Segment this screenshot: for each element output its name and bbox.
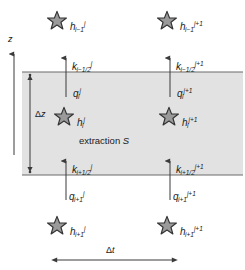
- q-bottom-left-sup: j: [83, 190, 84, 197]
- h-bottom-right-label: hi+1j+1: [180, 222, 203, 239]
- q-bottom-left-sub: i+1: [74, 196, 83, 203]
- star-h-top-left: [48, 11, 67, 29]
- q-top-right-sub: i: [182, 93, 183, 100]
- q-bottom-right-sub: i+1: [178, 196, 187, 203]
- h-center-right-sup: j+1: [189, 116, 198, 123]
- h-center-left-sup: j: [84, 116, 85, 123]
- h-top-right-sub: i−1: [185, 26, 194, 33]
- diagram-canvas: z Δz Δt extraction S hi−1j hi−1j+1 hij h…: [0, 0, 245, 270]
- h-bottom-right-sup: j+1: [194, 225, 203, 232]
- q-bottom-left-label: qi+1j: [69, 187, 84, 204]
- k-top-left-label: ki−1/2j: [72, 57, 92, 74]
- z-axis-label: z: [8, 35, 13, 44]
- h-bottom-right-sub: i+1: [185, 231, 194, 238]
- q-top-left-label: qij: [73, 84, 81, 101]
- q-top-right-label: qij+1: [177, 84, 192, 101]
- q-bottom-right-label: qi+1j+1: [173, 187, 196, 204]
- k-bottom-right-sub: i+1/2: [181, 169, 195, 176]
- h-top-left-sub: i−1: [75, 26, 84, 33]
- star-h-top-right: [158, 11, 177, 29]
- q-top-right-sup: j+1: [184, 87, 193, 94]
- delta-z-var: z: [41, 109, 46, 119]
- q-top-left-sup: j: [80, 87, 81, 94]
- star-h-bottom-left: [48, 216, 67, 234]
- k-top-right-sup: j+1: [195, 60, 204, 67]
- extraction-note: extraction S: [79, 136, 129, 146]
- delta-t-var: t: [112, 245, 115, 255]
- h-center-left-label: hij: [77, 113, 85, 130]
- k-top-right-sub: i−1/2: [181, 66, 195, 73]
- h-center-left-sub: i: [82, 122, 83, 129]
- q-top-left-sub: i: [78, 93, 79, 100]
- q-bottom-right-sup: j+1: [187, 190, 196, 197]
- delta-t-label: Δt: [106, 246, 115, 255]
- k-top-left-sup: j: [91, 60, 92, 67]
- k-bottom-left-label: ki+1/2j: [72, 160, 92, 177]
- k-bottom-left-sup: j: [91, 163, 92, 170]
- extraction-note-text: extraction: [79, 135, 123, 146]
- k-bottom-right-sup: j+1: [195, 163, 204, 170]
- h-center-right-label: hij+1: [182, 113, 197, 130]
- k-top-right-label: ki−1/2j+1: [176, 57, 204, 74]
- delta-z-label: Δz: [35, 110, 46, 119]
- star-h-bottom-right: [158, 216, 177, 234]
- k-bottom-right-label: ki+1/2j+1: [176, 160, 204, 177]
- cell-body-fill: [22, 72, 243, 175]
- h-bottom-left-label: hi+1j: [70, 222, 85, 239]
- h-bottom-left-sup: j: [84, 225, 85, 232]
- h-top-right-label: hi−1j+1: [180, 17, 203, 34]
- h-top-right-sup: j+1: [194, 20, 203, 27]
- h-bottom-left-sub: i+1: [75, 231, 84, 238]
- h-top-left-label: hi−1j: [70, 17, 85, 34]
- h-center-right-sub: i: [187, 122, 188, 129]
- h-top-left-sup: j: [84, 20, 85, 27]
- extraction-note-symbol: S: [123, 135, 129, 146]
- k-top-left-sub: i−1/2: [77, 66, 91, 73]
- k-bottom-left-sub: i+1/2: [77, 169, 91, 176]
